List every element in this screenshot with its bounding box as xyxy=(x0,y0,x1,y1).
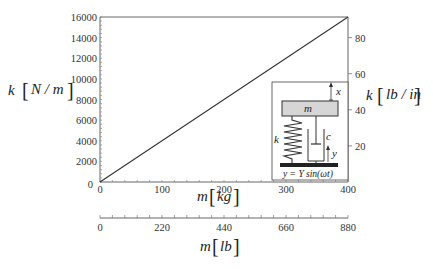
svg-text:k: k xyxy=(366,87,373,103)
svg-text:y = Y sin(ωt): y = Y sin(ωt) xyxy=(282,169,333,180)
svg-text:k: k xyxy=(8,82,15,98)
svg-text:kg: kg xyxy=(217,188,232,204)
x-tick-label: 100 xyxy=(154,184,170,195)
y-tick-label: 8000 xyxy=(76,95,97,106)
svg-text:]: ] xyxy=(233,235,240,257)
x-tick-label: 300 xyxy=(278,184,294,195)
y-tick-label: 0 xyxy=(88,179,93,190)
svg-text:m: m xyxy=(304,102,312,114)
y2-tick-label: 40 xyxy=(355,105,366,116)
x2-tick-label: 880 xyxy=(340,222,356,233)
svg-text:]: ] xyxy=(414,84,421,106)
inset-schematic: m x k c y y = Y sin(ωt) xyxy=(272,82,348,180)
y2-tick-label: 80 xyxy=(355,33,366,44)
svg-text:c: c xyxy=(326,130,331,142)
y-tick-label: 12000 xyxy=(71,53,97,64)
svg-text:m: m xyxy=(197,188,208,204)
svg-text:y: y xyxy=(331,147,337,159)
svg-text:lb: lb xyxy=(220,238,232,254)
x2-tick-label: 220 xyxy=(154,222,170,233)
y2-axis-ticks: 20406080 xyxy=(348,33,366,152)
y-axis-ticks: 0200040006000800010000120001400016000 xyxy=(71,12,97,190)
x2-tick-label: 0 xyxy=(97,222,102,233)
x2-tick-label: 660 xyxy=(278,222,294,233)
svg-text:]: ] xyxy=(67,79,74,101)
y-tick-label: 10000 xyxy=(71,74,97,85)
y2-tick-label: 20 xyxy=(355,141,366,152)
svg-text:[: [ xyxy=(377,84,384,106)
base-plate xyxy=(280,163,338,167)
y-tick-label: 2000 xyxy=(76,156,97,167)
svg-text:m: m xyxy=(200,238,211,254)
y2-tick-label: 60 xyxy=(355,69,366,80)
y-axis-label: k [ N / m ] xyxy=(8,79,74,101)
x-tick-label: 0 xyxy=(97,184,102,195)
y-tick-label: 14000 xyxy=(71,33,97,44)
x-axis-label: m [ kg ] xyxy=(197,185,240,207)
x2-tick-label: 440 xyxy=(216,222,232,233)
svg-text:[: [ xyxy=(22,79,29,101)
svg-text:N / m: N / m xyxy=(30,81,64,97)
x2-axis-label: m [ lb ] xyxy=(200,235,240,257)
chart-canvas: 0200040006000800010000120001400016000 01… xyxy=(0,0,433,269)
svg-text:[: [ xyxy=(212,235,219,257)
x-tick-label: 400 xyxy=(340,184,356,195)
y-tick-label: 16000 xyxy=(71,12,97,23)
y-tick-label: 6000 xyxy=(76,115,97,126)
svg-text:]: ] xyxy=(233,185,240,207)
secondary-x-axis: 0220440660880 xyxy=(97,215,356,233)
y-tick-label: 4000 xyxy=(76,136,97,147)
svg-text:[: [ xyxy=(209,185,216,207)
y2-axis-label: k [ lb / in ] xyxy=(366,84,421,106)
svg-text:x: x xyxy=(335,85,341,97)
